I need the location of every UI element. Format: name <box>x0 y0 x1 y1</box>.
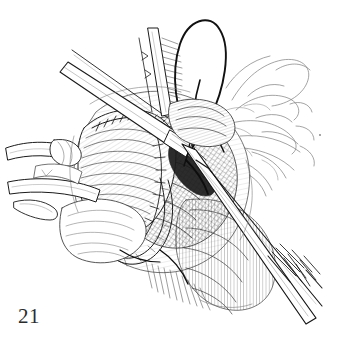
figure-number: 21 <box>18 304 40 328</box>
surgical-illustration <box>0 0 341 347</box>
tissue-lobe-lower-left <box>60 199 146 263</box>
figure-container: 21 <box>0 0 341 347</box>
